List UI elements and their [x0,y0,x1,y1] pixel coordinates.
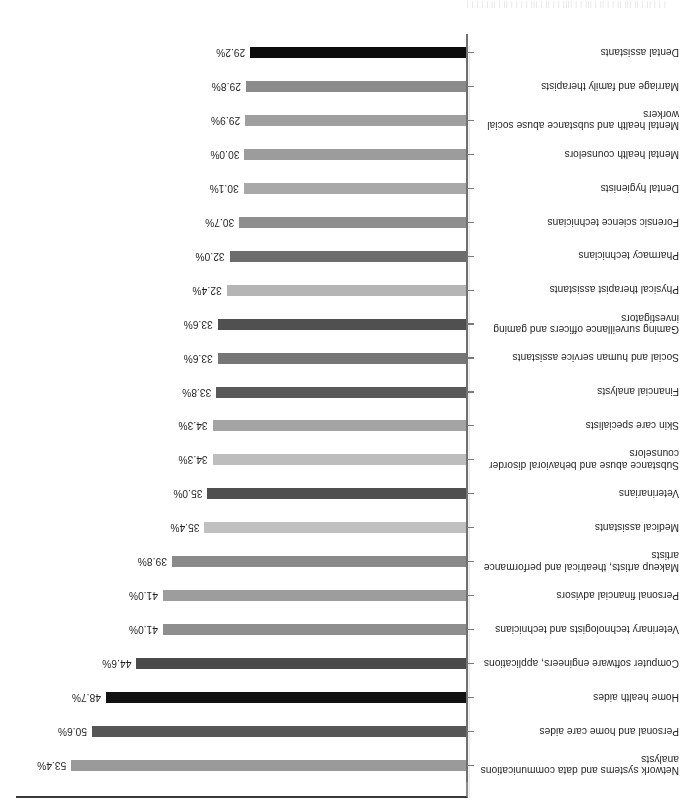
category-label-line: Financial analysts [597,386,679,398]
bar-fill [239,217,466,228]
bar-value-label: 50.6% [58,724,87,739]
bar[interactable] [227,285,467,296]
bar-fill [213,421,467,432]
category-label-line: Mental health and substance abuse social [487,120,679,132]
bar-value-label: 35.0% [173,486,202,501]
axis-tick [467,731,474,732]
bar-fill [230,251,467,262]
category-label-line: Network systems and data communications [481,765,679,777]
category-label-line: Forensic science technicians [547,216,679,228]
category-label: Personal and home care aides [474,714,679,748]
bar-fill [172,556,467,567]
category-label: Financial analysts [474,375,679,409]
bar[interactable] [213,421,467,432]
bar-fill [244,149,466,160]
bar-row: Pharmacy technicians32.0% [8,239,679,273]
bar[interactable] [213,454,467,465]
bar-value-label: 35.4% [170,520,199,535]
category-label: Substance abuse and behavioral disorderc… [474,442,679,476]
bar-row: Marriage and family therapists29.8% [8,69,679,103]
category-label-line: artists [484,550,679,562]
category-label-line: Veterinarians [619,488,679,500]
category-label-line: Gaming surveillance officers and gaming [493,324,679,336]
bar-value-label: 41.0% [129,622,158,637]
bar[interactable] [239,217,466,228]
bar-value-label: 30.0% [210,147,239,162]
category-label-line: Substance abuse and behavioral disorder [489,459,679,471]
axis-tick [467,323,474,324]
bar-row: Mental health and substance abuse social… [8,103,679,137]
bar-chart: Network systems and data communicationsa… [8,18,679,796]
category-label: Social and human service assistants [474,341,679,375]
category-label-line: Medical assistants [595,522,679,534]
scanned-page: | | | || | || ||| || | | || | ||| | | ||… [0,0,687,812]
bar-row: Dental assistants29.2% [8,35,679,69]
bar-value-label: 33.6% [184,351,213,366]
category-label-line: Makeup artists, theatrical and performan… [484,561,679,573]
bar[interactable] [204,522,466,533]
category-label-line: Pharmacy technicians [578,250,679,262]
bar-value-label: 53.4% [37,758,66,773]
category-label-line: Marriage and family therapists [541,80,679,92]
bar-row: Forensic science technicians30.7% [8,205,679,239]
bar-fill [207,488,466,499]
bar-row: Dental hygienists30.1% [8,171,679,205]
bar[interactable] [218,353,467,364]
bar-value-label: 34.3% [178,452,207,467]
category-label: Makeup artists, theatrical and performan… [474,544,679,578]
bar-value-label: 32.0% [195,249,224,264]
bar[interactable] [245,115,466,126]
bar[interactable] [218,319,467,330]
category-label: Physical therapist assistants [474,273,679,307]
bar[interactable] [136,658,466,669]
bar[interactable] [216,387,466,398]
bar-fill [163,590,466,601]
bar-row: Veterinary technologists and technicians… [8,612,679,646]
bar-row: Home health aides48.7% [8,680,679,714]
bar[interactable] [172,556,467,567]
axis-tick [467,697,474,698]
axis-tick [467,391,474,392]
bar[interactable] [250,47,466,58]
bar[interactable] [71,760,466,771]
bar-row: Medical assistants35.4% [8,510,679,544]
category-label: Medical assistants [474,510,679,544]
bar[interactable] [244,183,467,194]
bar[interactable] [163,590,466,601]
category-label: Computer software engineers, application… [474,646,679,680]
bar[interactable] [244,149,466,160]
bar[interactable] [163,624,466,635]
bar[interactable] [207,488,466,499]
bar-row: Computer software engineers, application… [8,646,679,680]
category-label-line: Veterinary technologists and technicians [495,623,679,635]
category-label-line: Personal financial advisors [556,590,679,602]
bar-row: Financial analysts33.8% [8,375,679,409]
bar-value-label: 29.9% [211,113,240,128]
axis-tick [467,527,474,528]
axis-tick [467,154,474,155]
category-label-line: Social and human service assistants [512,352,679,364]
bar-value-label: 34.3% [178,419,207,434]
category-label: Personal financial advisors [474,578,679,612]
bar-value-label: 29.8% [212,79,241,94]
category-label-line: Computer software engineers, application… [484,657,679,669]
bar-fill [250,47,466,58]
bar[interactable] [230,251,467,262]
bar[interactable] [106,692,466,703]
axis-tick [467,357,474,358]
bar-fill [245,115,466,126]
bar-value-label: 44.6% [102,656,131,671]
bar-fill [213,454,467,465]
bar-row: Makeup artists, theatrical and performan… [8,544,679,578]
axis-tick [467,425,474,426]
bar[interactable] [92,726,466,737]
category-label-line: Personal and home care aides [539,725,679,737]
bar-value-label: 33.8% [182,385,211,400]
category-label: Mental health and substance abuse social… [474,103,679,137]
axis-tick [467,222,474,223]
axis-tick [467,290,474,291]
category-label: Dental assistants [474,35,679,69]
axis-tick [467,52,474,53]
bar[interactable] [246,81,467,92]
axis-tick [467,765,474,766]
